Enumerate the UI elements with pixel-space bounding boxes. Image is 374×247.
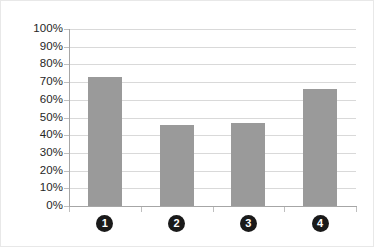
- y-tick-label-80: 80%: [19, 58, 63, 70]
- y-tick-label-10: 10%: [19, 182, 63, 194]
- y-tick-label-90: 90%: [19, 41, 63, 53]
- bar-3: [231, 123, 265, 206]
- category-marker-2: 2: [168, 215, 185, 232]
- gridline-100: [69, 29, 356, 30]
- bar-1: [88, 77, 122, 206]
- y-tick-label-100: 100%: [19, 23, 63, 35]
- category-marker-4: 4: [312, 215, 329, 232]
- bar-4: [303, 89, 337, 206]
- bar-chart-figure: 100%90%80%70%60%50%40%30%20%10%0% 1234: [0, 0, 374, 247]
- y-tick-label-40: 40%: [19, 129, 63, 141]
- category-marker-1: 1: [96, 215, 113, 232]
- x-tick-mark-0: [69, 207, 70, 212]
- bar-2: [160, 125, 194, 206]
- y-tick-label-50: 50%: [19, 112, 63, 124]
- y-tick-label-60: 60%: [19, 94, 63, 106]
- gridline-90: [69, 47, 356, 48]
- x-tick-mark-1: [141, 207, 142, 212]
- y-axis-line: [69, 29, 70, 207]
- y-tick-label-30: 30%: [19, 147, 63, 159]
- y-tick-label-70: 70%: [19, 76, 63, 88]
- y-tick-label-20: 20%: [19, 165, 63, 177]
- plot-area: [69, 29, 356, 206]
- y-tick-label-0: 0%: [19, 200, 63, 212]
- x-tick-mark-2: [213, 207, 214, 212]
- gridline-80: [69, 64, 356, 65]
- x-tick-mark-4: [356, 207, 357, 212]
- category-marker-3: 3: [240, 215, 257, 232]
- x-tick-mark-3: [284, 207, 285, 212]
